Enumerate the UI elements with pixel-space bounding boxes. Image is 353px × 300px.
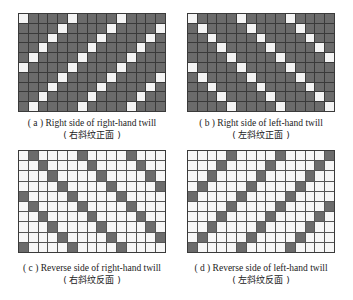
weave-cell [276, 24, 285, 33]
weave-cell [208, 202, 217, 211]
weave-cell [276, 83, 285, 92]
weave-cell [286, 102, 295, 111]
weave-cell [325, 24, 334, 33]
weave-float-cell [237, 243, 246, 252]
weave-cell [48, 151, 57, 160]
weave-cell [137, 102, 146, 111]
weave-cell [198, 161, 207, 170]
weave-cell [208, 14, 217, 23]
weave-cell [315, 14, 324, 23]
weave-cell [227, 73, 236, 82]
weave-cell [156, 212, 165, 221]
weave-cell [276, 43, 285, 52]
weave-cell [68, 182, 77, 191]
weave-cell [227, 171, 236, 180]
weave-cell [58, 53, 67, 62]
weave-grid-right-side-left-hand-twill [187, 13, 335, 112]
weave-cell [325, 243, 334, 252]
weave-cell [146, 53, 155, 62]
weave-cell [39, 171, 48, 180]
weave-cell [188, 202, 197, 211]
weave-cell [217, 102, 226, 111]
weave-cell [146, 43, 155, 52]
weave-cell [107, 53, 116, 62]
weave-cell [257, 192, 266, 201]
weave-float-cell [29, 202, 38, 211]
weave-cell [208, 102, 217, 111]
weave-float-cell [198, 24, 207, 33]
weave-cell [48, 73, 57, 82]
weave-cell [156, 34, 165, 43]
weave-cell [29, 83, 38, 92]
caption-b-en: ( b ) Right side of left-hand twill [199, 118, 323, 128]
weave-cell [117, 171, 126, 180]
weave-cell [306, 73, 315, 82]
weave-cell [19, 24, 28, 33]
weave-cell [237, 92, 246, 101]
weave-cell [266, 73, 275, 82]
weave-float-cell [296, 182, 305, 191]
weave-cell [117, 233, 126, 242]
weave-cell [266, 151, 275, 160]
weave-float-cell [296, 24, 305, 33]
weave-float-cell [208, 83, 217, 92]
weave-cell [127, 24, 136, 33]
weave-cell [19, 73, 28, 82]
weave-cell [137, 14, 146, 23]
weave-cell [156, 92, 165, 101]
weave-float-cell [286, 63, 295, 72]
weave-cell [48, 161, 57, 170]
weave-float-cell [247, 73, 256, 82]
weave-cell [257, 151, 266, 160]
weave-cell [217, 53, 226, 62]
weave-cell [78, 222, 87, 231]
weave-cell [88, 53, 97, 62]
weave-cell [325, 222, 334, 231]
weave-cell [39, 192, 48, 201]
weave-cell [117, 73, 126, 82]
weave-float-cell [29, 102, 38, 111]
weave-cell [117, 102, 126, 111]
weave-cell [286, 43, 295, 52]
weave-cell [325, 233, 334, 242]
weave-cell [29, 212, 38, 221]
weave-float-cell [266, 212, 275, 221]
weave-cell [137, 182, 146, 191]
weave-cell [97, 73, 106, 82]
weave-cell [78, 63, 87, 72]
weave-cell [257, 53, 266, 62]
weave-cell [58, 151, 67, 160]
weave-cell [117, 151, 126, 160]
weave-cell [97, 151, 106, 160]
weave-cell [198, 34, 207, 43]
weave-float-cell [78, 53, 87, 62]
caption-a: ( a ) Right side of right-hand twill ( 右… [4, 117, 180, 141]
weave-cell [29, 222, 38, 231]
weave-cell [315, 202, 324, 211]
weave-cell [58, 43, 67, 52]
weave-cell [137, 192, 146, 201]
weave-float-cell [97, 83, 106, 92]
weave-cell [227, 34, 236, 43]
weave-cell [146, 233, 155, 242]
weave-cell [237, 222, 246, 231]
weave-float-cell [48, 222, 57, 231]
weave-cell [19, 83, 28, 92]
weave-cell [19, 151, 28, 160]
weave-cell [217, 192, 226, 201]
weave-cell [296, 92, 305, 101]
weave-cell [117, 24, 126, 33]
weave-float-cell [315, 92, 324, 101]
weave-cell [247, 34, 256, 43]
weave-cell [48, 14, 57, 23]
weave-cell [286, 151, 295, 160]
weave-cell [48, 192, 57, 201]
weave-float-cell [276, 202, 285, 211]
weave-cell [58, 14, 67, 23]
weave-float-cell [156, 24, 165, 33]
weave-cell [88, 233, 97, 242]
weave-float-cell [188, 63, 197, 72]
weave-cell [107, 151, 116, 160]
weave-cell [276, 161, 285, 170]
weave-float-cell [78, 202, 87, 211]
